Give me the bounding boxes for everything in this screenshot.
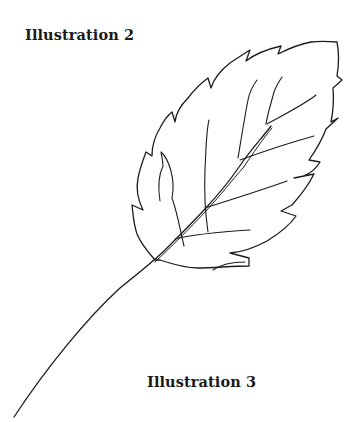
leaf-vein	[159, 152, 184, 246]
leaf-vein	[267, 95, 316, 124]
leaf-vein	[240, 136, 314, 160]
caption-illustration-3: Illustration 3	[147, 375, 256, 390]
leaf-vein	[205, 120, 209, 232]
leaf-illustration	[0, 0, 357, 422]
